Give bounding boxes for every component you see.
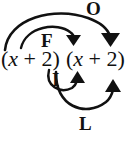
label-first: F <box>41 31 53 50</box>
foil-diagram: (x + 2) (x + 2) F O I L <box>0 0 131 141</box>
right-factor: (x + 2) <box>66 46 125 72</box>
label-last: L <box>79 114 92 133</box>
label-inner: I <box>52 70 59 89</box>
label-outer: O <box>86 0 101 18</box>
